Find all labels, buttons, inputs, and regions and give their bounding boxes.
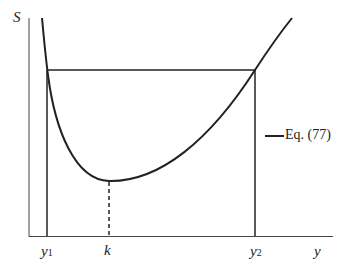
tick-y2: y2 [250, 243, 262, 260]
tick-y1: y1 [41, 243, 53, 260]
tick-k: k [104, 242, 111, 259]
legend-label: Eq. (77) [285, 127, 331, 143]
x-axis-label: y [314, 243, 321, 260]
y-axis-label: S [13, 9, 21, 26]
